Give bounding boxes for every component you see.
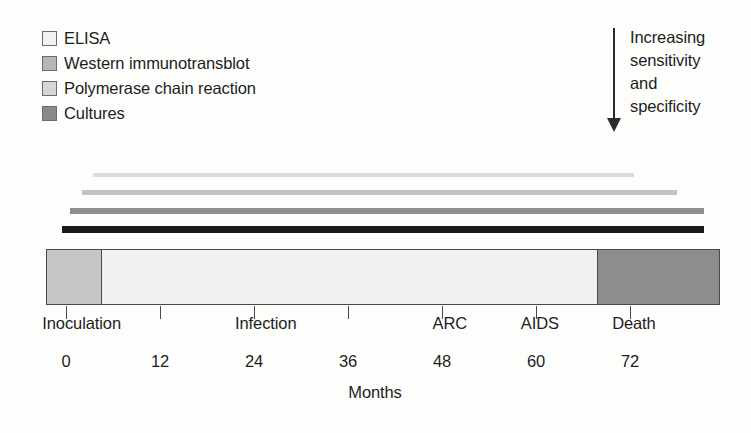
detection-bar-western-immunotransblot	[82, 190, 677, 195]
detection-bar-elisa	[93, 173, 634, 177]
axis-tick-label-48: 48	[433, 352, 451, 371]
timeline-segment-death-phase	[598, 250, 719, 304]
stage-label-infection: Infection	[235, 314, 296, 333]
detection-bar-cultures	[62, 226, 704, 233]
axis-title: Months	[348, 383, 402, 402]
axis-tick-label-24: 24	[245, 352, 263, 371]
axis-tick-label-60: 60	[527, 352, 545, 371]
stage-label-arc: ARC	[433, 314, 468, 333]
axis-tick-label-36: 36	[339, 352, 357, 371]
timeline-segment-infection-phase	[102, 250, 598, 304]
axis-tick-label-72: 72	[621, 352, 639, 371]
timeline-segment-inoculation-phase	[47, 250, 102, 304]
detection-bar-polymerase-chain-reaction	[70, 208, 705, 214]
axis-tick-36	[348, 306, 349, 319]
axis-tick-12	[160, 306, 161, 319]
disease-timeline	[46, 249, 720, 305]
axis-tick-label-0: 0	[61, 352, 70, 371]
stage-label-inoculation: Inoculation	[42, 314, 121, 333]
hiv-timeline-figure: ELISA Western immunotransblot Polymerase…	[0, 0, 751, 433]
stage-label-death: Death	[612, 314, 656, 333]
stage-label-aids: AIDS	[521, 314, 559, 333]
axis-tick-label-12: 12	[151, 352, 169, 371]
